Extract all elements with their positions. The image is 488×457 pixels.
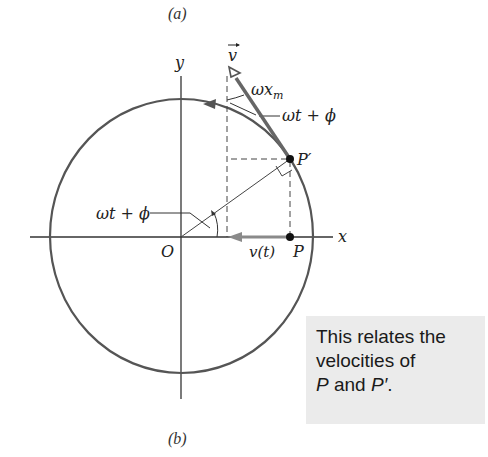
point-p bbox=[286, 233, 294, 241]
velocity-label: v(t) bbox=[249, 243, 275, 261]
callout-note: This relates the velocities of P and P′. bbox=[306, 316, 485, 424]
radius-line bbox=[181, 159, 290, 237]
vector-arrowhead-icon bbox=[229, 67, 240, 77]
callout-line-2: velocities of bbox=[316, 349, 485, 373]
x-axis-label: x bbox=[338, 227, 347, 246]
callout-line-1: This relates the bbox=[316, 325, 485, 349]
angle-arc-vector bbox=[227, 95, 244, 100]
point-p-label: P bbox=[292, 242, 304, 261]
angle-origin-label: ωt + ϕ bbox=[96, 204, 150, 223]
point-pprime-label: P′ bbox=[296, 150, 312, 169]
caption-b: (b) bbox=[168, 430, 187, 448]
origin-label: O bbox=[161, 242, 174, 261]
angle-arc-origin bbox=[214, 213, 218, 237]
y-axis-label: y bbox=[174, 53, 185, 72]
velocity-p-arrowhead-icon bbox=[228, 232, 242, 242]
vector-label: v bbox=[228, 46, 237, 65]
angle-vector-label: ωt + ϕ bbox=[282, 106, 336, 125]
magnitude-label: ωxm bbox=[251, 80, 284, 102]
vector-arrow-icon bbox=[236, 43, 240, 47]
caption-a: (a) bbox=[168, 5, 187, 23]
callout-line-3: P and P′. bbox=[316, 373, 485, 397]
point-pprime bbox=[286, 155, 294, 163]
angle-origin-leader bbox=[150, 213, 210, 228]
